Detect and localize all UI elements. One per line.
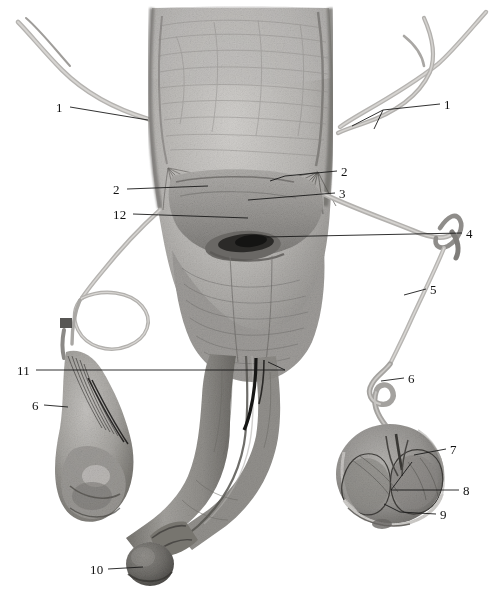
label-6-left: 6	[32, 399, 39, 412]
anatomy-figure: 1 1 2 2 3 12 4 5 11 6 6 7 8 9 10	[0, 0, 494, 603]
label-6-right: 6	[408, 372, 415, 385]
label-11-left: 11	[17, 364, 30, 377]
label-7-right: 7	[450, 443, 457, 456]
label-5-right: 5	[430, 283, 437, 296]
label-1-right: 1	[444, 98, 451, 111]
label-10-left: 10	[90, 563, 103, 576]
label-1-left: 1	[56, 101, 63, 114]
label-8-right: 8	[463, 484, 470, 497]
label-12-left: 12	[113, 208, 126, 221]
label-9-right: 9	[440, 508, 447, 521]
label-2-right: 2	[341, 165, 348, 178]
label-3-right: 3	[339, 187, 346, 200]
label-2-left: 2	[113, 183, 120, 196]
label-4-right: 4	[466, 227, 473, 240]
specimen-photograph	[0, 0, 494, 603]
glans-penis	[126, 542, 174, 586]
